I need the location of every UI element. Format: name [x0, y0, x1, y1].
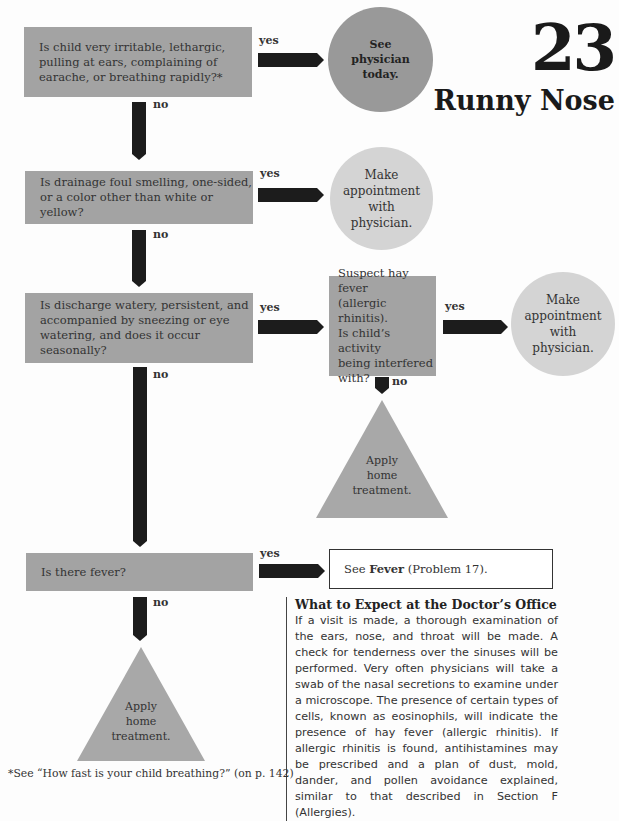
fever-link: Fever [369, 562, 404, 576]
down-arrow-icon [132, 102, 146, 160]
outcome-make-appointment-2: Make appointment with physician. [511, 272, 615, 376]
no-label-3: no [153, 368, 168, 381]
down-arrow-icon [375, 377, 389, 394]
outcome-see-physician-today: See physician today. [328, 7, 433, 112]
right-arrow-icon [258, 53, 324, 67]
right-arrow-icon [259, 564, 325, 578]
no-label-4: no [153, 596, 168, 609]
question-text-2: Is drainage foul smelling, one-sided, or… [40, 175, 253, 220]
page-title: Runny Nose [434, 86, 616, 116]
down-arrow-icon [132, 230, 146, 287]
right-arrow-icon [258, 188, 324, 202]
no-label-1: no [153, 98, 168, 111]
question-box-4: Is there fever? [26, 553, 253, 591]
yes-label-4: yes [260, 547, 280, 560]
down-arrow-icon [133, 367, 147, 547]
problem-number: 23 [531, 18, 614, 78]
question-text-hay-fever: Suspect hay fever (allergic rhinitis). I… [338, 266, 436, 386]
section-body: If a visit is made, a thorough examinati… [295, 613, 558, 821]
home-treatment-text-1: Apply home treatment. [342, 453, 422, 498]
home-treatment-text-2: Apply home treatment. [101, 699, 181, 744]
no-label-hay-fever: no [392, 375, 407, 388]
down-arrow-icon [133, 597, 147, 641]
right-arrow-icon [443, 320, 508, 334]
no-label-2: no [153, 228, 168, 241]
yes-label-hay-fever: yes [445, 300, 465, 313]
question-box-2: Is drainage foul smelling, one-sided, or… [25, 171, 253, 224]
footnote: *See “How fast is your child breathing?”… [8, 767, 294, 780]
question-text-4: Is there fever? [41, 565, 126, 580]
outcome-see-fever: See Fever (Problem 17). [329, 549, 553, 589]
yes-label-1: yes [259, 34, 279, 47]
question-box-hay-fever: Suspect hay fever (allergic rhinitis). I… [329, 276, 436, 376]
question-box-3: Is discharge watery, persistent, and acc… [25, 293, 253, 363]
outcome-make-appointment-1: Make appointment with physician. [330, 147, 433, 250]
yes-label-3: yes [260, 301, 280, 314]
question-text-1: Is child very irritable, lethargic, pull… [39, 40, 225, 85]
right-arrow-icon [258, 320, 324, 334]
yes-label-2: yes [260, 167, 280, 180]
section-heading: What to Expect at the Doctor’s Office [295, 597, 558, 613]
question-box-1: Is child very irritable, lethargic, pull… [24, 27, 252, 97]
question-text-3: Is discharge watery, persistent, and acc… [40, 298, 253, 358]
doctor-office-section: What to Expect at the Doctor’s Office If… [286, 597, 558, 821]
